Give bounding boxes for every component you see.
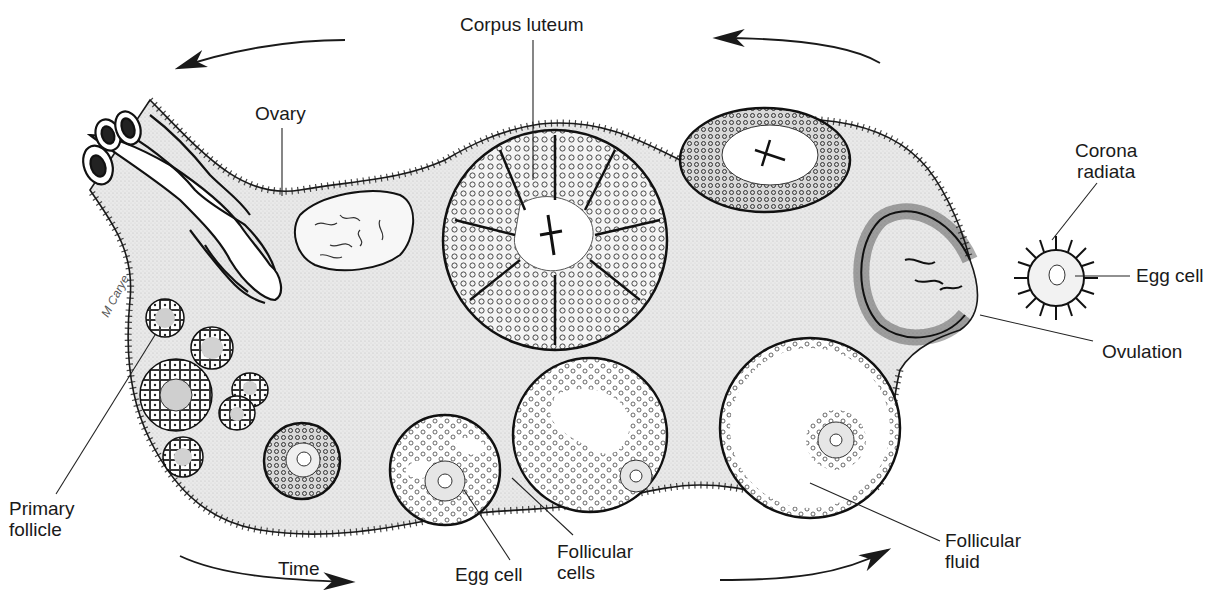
label-corona-radiata: Corona radiata xyxy=(1075,140,1137,182)
label-time: Time xyxy=(278,558,320,579)
label-primary-follicle: Primary follicle xyxy=(9,498,74,540)
secondary-follicle xyxy=(264,423,340,499)
label-ovulation: Ovulation xyxy=(1102,341,1182,362)
early-antral-follicle xyxy=(390,415,500,525)
top-left-arrow xyxy=(178,40,345,68)
top-right-arrow xyxy=(716,38,880,63)
label-ovary: Ovary xyxy=(255,103,306,124)
label-follicular-cells: Follicular cells xyxy=(557,541,633,583)
mature-graafian-follicle xyxy=(720,338,900,518)
bottom-right-arrow xyxy=(720,550,888,580)
ovarian-cycle-diagram: M Carye Corpus luteum Ovary Corona radia… xyxy=(0,0,1215,594)
label-follicular-fluid: Follicular fluid xyxy=(945,530,1021,572)
bottom-left-arrow xyxy=(180,556,352,582)
artist-signature: M Carye xyxy=(98,273,132,320)
regressing-corpus-luteum xyxy=(680,108,850,212)
released-ovum xyxy=(1014,236,1098,320)
label-egg-cell-follicle: Egg cell xyxy=(455,564,523,585)
antral-follicle xyxy=(513,358,667,512)
label-corpus-luteum: Corpus luteum xyxy=(460,14,584,35)
corpus-luteum xyxy=(443,130,667,350)
label-egg-cell-released: Egg cell xyxy=(1136,265,1204,286)
